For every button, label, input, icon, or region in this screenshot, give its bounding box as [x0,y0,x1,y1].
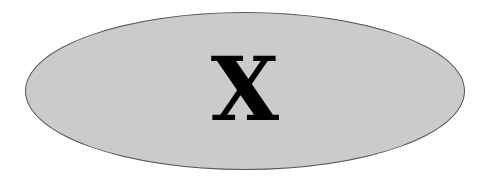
ellipse-node: X [25,12,465,170]
node-label: X [211,45,279,133]
